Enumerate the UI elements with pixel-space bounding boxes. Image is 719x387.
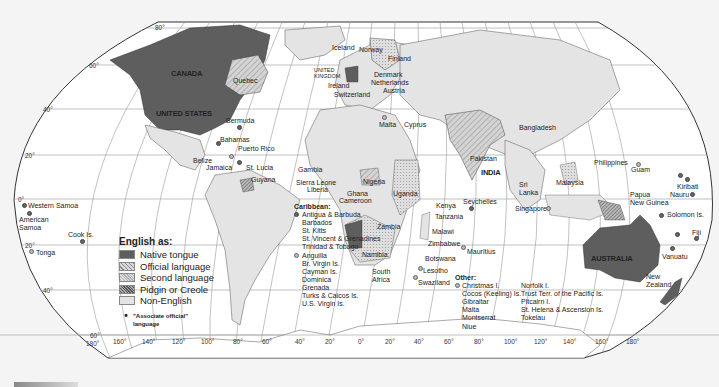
other-item: Tokelau	[521, 314, 604, 322]
marker-malta	[382, 115, 387, 120]
lon-label: 0°	[358, 338, 364, 346]
label-austria: Austria	[383, 87, 405, 95]
label-philippines: Philippines	[594, 159, 628, 167]
lon-label: 60°	[444, 338, 454, 346]
label-australia: AUSTRALIA	[591, 255, 633, 263]
label-india: INDIA	[481, 169, 500, 177]
legend-title: English as:	[119, 236, 229, 247]
legend-label: Official language	[140, 261, 211, 272]
label-finland: Finland	[388, 55, 411, 63]
label-zambia: Zambia	[377, 223, 400, 231]
other-list: Other: Christmas I. Cocos (Keeling) Is. …	[455, 274, 521, 331]
label-papua-new-guinea: PapuaNew Guinea	[630, 191, 669, 207]
label-malaysia: Malaysia	[556, 179, 584, 187]
other-item: Montserrat	[462, 314, 521, 322]
label-nauru: Nauru	[670, 191, 689, 199]
marker-mauritius	[461, 245, 466, 250]
lon-label: 160°	[595, 338, 608, 346]
label-mauritius: Mauritius	[467, 248, 495, 256]
label-new-zealand: NewZealand	[646, 273, 671, 289]
label-cyprus: Cyprus	[404, 121, 426, 129]
marker-puerto-rico	[229, 154, 234, 159]
label-bangladesh: Bangladesh	[519, 124, 556, 132]
legend-row-second: Second language	[119, 272, 229, 284]
caribbean-item: Turks & Caicos Is.	[302, 292, 380, 300]
label-norway: Norway	[359, 46, 383, 54]
caribbean-item: Antigua & Barbuda	[302, 211, 380, 219]
label-uk: UNITEDKINGDOM	[314, 67, 340, 79]
label-botswana: Botswana	[425, 255, 456, 263]
marker-lesser-antilles	[237, 160, 242, 165]
label-sri-lanka: SriLanka	[519, 181, 538, 197]
label-vanuatu: Vanuatu	[662, 253, 688, 261]
lon-label: 20°	[385, 338, 395, 346]
marker-singapore	[546, 206, 551, 211]
label-tonga: Tonga	[36, 249, 55, 257]
label-zimbabwe: Zimbabwe	[428, 240, 460, 248]
label-kiribati: Kiribati	[677, 183, 698, 191]
marker-bermuda	[237, 125, 242, 130]
lon-label: 80°	[233, 338, 243, 346]
associate-label-line1: "Associate official"	[133, 313, 188, 319]
caribbean-item: Br. Virgin Is.	[302, 260, 380, 268]
other-item: Pitcairn I.	[521, 298, 604, 306]
label-st-lucia: St. Lucia	[246, 164, 273, 172]
legend-row-non-english: Non-English	[119, 295, 229, 307]
other-item: St. Helena & Ascension Is.	[521, 306, 604, 314]
label-western-samoa: Western Samoa	[28, 202, 78, 210]
decorative-bar	[14, 382, 78, 387]
label-netherlands: Netherlands	[371, 79, 409, 87]
marker-nauru	[690, 192, 695, 197]
label-jamaica: Jamaica	[206, 164, 232, 172]
other-item: Cocos (Keeling) Is.	[462, 290, 521, 298]
label-singapore: Singapore	[515, 205, 547, 213]
swatch-non-english	[119, 296, 135, 305]
lon-label: 80°	[474, 338, 484, 346]
label-gambia: Gambia	[298, 166, 323, 174]
label-ireland: Ireland	[328, 82, 349, 90]
swatch-pidgin-creole	[119, 285, 135, 294]
other-list-col2: Norfolk I. Trust Terr. of the Pacific Is…	[521, 282, 604, 322]
label-uganda: Uganda	[393, 190, 418, 198]
label-malawi: Malawi	[432, 228, 454, 236]
legend-row-pidgin: Pidgin or Creole	[119, 284, 229, 296]
lon-label: 160°	[113, 338, 126, 346]
other-item: Trust Terr. of the Pacific Is.	[521, 290, 604, 298]
marker-vanuatu-north	[675, 232, 680, 237]
other-item: Gibraltar	[462, 298, 521, 306]
lon-label: 100°	[504, 338, 517, 346]
caribbean-item: Dominica	[302, 276, 380, 284]
swatch-native-tongue	[119, 250, 135, 259]
marker-kiribati-2	[685, 177, 690, 182]
swatch-official-language	[119, 262, 135, 271]
legend-label: Second language	[140, 272, 214, 283]
lon-label: 120°	[534, 338, 547, 346]
other-item: Norfolk I.	[521, 282, 604, 290]
legend-row-official: Official language	[119, 261, 229, 273]
label-seychelles: Seychelles	[463, 198, 497, 206]
label-american-samoa: AmericanSamoa	[19, 216, 49, 232]
other-item: Malta	[462, 306, 521, 314]
label-guyana: Guyana	[251, 176, 276, 184]
associate-label-line2: language	[133, 321, 159, 327]
label-iceland: Iceland	[332, 44, 355, 52]
lon-label: 100°	[201, 338, 214, 346]
label-switzerland: Switzerland	[334, 91, 370, 99]
lon-label: 180°	[86, 340, 99, 348]
label-denmark: Denmark	[374, 71, 402, 79]
marker-solomon-islands	[659, 213, 664, 218]
lat-label-20n: 20°	[25, 152, 35, 160]
marker-western-samoa	[22, 203, 27, 208]
label-puerto-rico: Puerto Rico	[238, 145, 275, 153]
label-liberia: Liberia	[307, 186, 328, 194]
marker-tonga	[29, 249, 34, 254]
other-heading: Other:	[455, 274, 521, 282]
caribbean-item: Grenada	[302, 284, 380, 292]
lon-label: 180°	[626, 338, 639, 346]
legend-associate-official: • "Associate official"language	[119, 312, 229, 328]
caribbean-item: U.S. Virgin Is.	[302, 300, 380, 308]
associate-dot-icon: •	[119, 312, 133, 328]
marker-seychelles	[469, 206, 474, 211]
marker-caribbean-dark	[294, 212, 299, 217]
legend-label: Non-English	[140, 295, 192, 306]
